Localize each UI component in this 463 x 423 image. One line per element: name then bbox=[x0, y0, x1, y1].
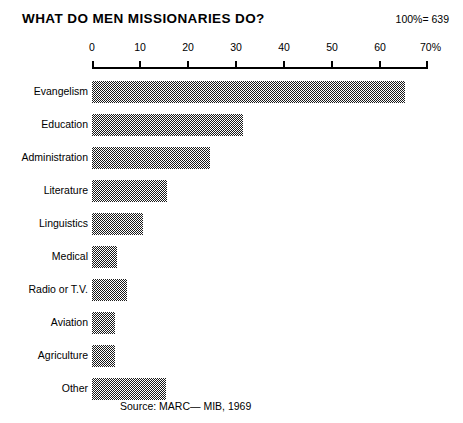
bar bbox=[92, 81, 405, 103]
x-axis-tick-mark bbox=[139, 61, 141, 68]
bar-row: Administration bbox=[0, 147, 463, 180]
bar bbox=[92, 147, 210, 169]
category-label: Radio or T.V. bbox=[28, 283, 88, 295]
bar-chart-plot-area: EvangelismEducationAdministrationLiterat… bbox=[0, 81, 463, 411]
bar bbox=[92, 246, 117, 268]
x-axis-tick-label: 20 bbox=[182, 41, 194, 53]
category-label: Agriculture bbox=[38, 349, 88, 361]
x-axis-tick-label: 40 bbox=[278, 41, 290, 53]
x-axis-tick-label: 50 bbox=[326, 41, 338, 53]
x-axis-tick-label: 70% bbox=[420, 41, 441, 53]
x-axis-tick-mark bbox=[379, 61, 381, 68]
bar bbox=[92, 279, 127, 301]
category-label: Aviation bbox=[51, 316, 88, 328]
source-note: Source: MARC— MIB, 1969 bbox=[120, 400, 251, 412]
bar-row: Linguistics bbox=[0, 213, 463, 246]
x-axis-cap-left bbox=[92, 61, 94, 69]
category-label: Literature bbox=[44, 184, 88, 196]
category-label: Administration bbox=[21, 151, 88, 163]
x-axis-tick-mark bbox=[283, 61, 285, 68]
x-axis-line bbox=[92, 67, 428, 69]
bar-row: Agriculture bbox=[0, 345, 463, 378]
x-axis-tick-mark bbox=[331, 61, 333, 68]
category-label: Evangelism bbox=[34, 85, 88, 97]
category-label: Medical bbox=[52, 250, 88, 262]
bar-row: Literature bbox=[0, 180, 463, 213]
x-axis-tick-mark bbox=[187, 61, 189, 68]
bar bbox=[92, 345, 115, 367]
bar bbox=[92, 312, 115, 334]
bar-row: Medical bbox=[0, 246, 463, 279]
bar bbox=[92, 114, 243, 136]
x-axis-cap-right bbox=[426, 61, 428, 69]
bar-row: Radio or T.V. bbox=[0, 279, 463, 312]
category-label: Other bbox=[62, 382, 88, 394]
x-axis-tick-mark bbox=[235, 61, 237, 68]
x-axis-tick-label: 60 bbox=[374, 41, 386, 53]
category-label: Linguistics bbox=[39, 217, 88, 229]
bar bbox=[92, 180, 167, 202]
category-label: Education bbox=[41, 118, 88, 130]
x-axis-tick-label: 30 bbox=[230, 41, 242, 53]
bar-row: Education bbox=[0, 114, 463, 147]
bar-row: Aviation bbox=[0, 312, 463, 345]
x-axis-tick-label: 0 bbox=[89, 41, 95, 53]
bar bbox=[92, 378, 166, 400]
x-axis-tick-label: 10 bbox=[134, 41, 146, 53]
bar-row: Evangelism bbox=[0, 81, 463, 114]
bar bbox=[92, 213, 143, 235]
